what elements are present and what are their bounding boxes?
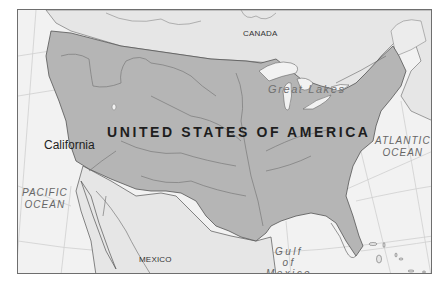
pacific-line-1: PACIFIC <box>22 188 68 198</box>
label-gulf-of-mexico: Gulf of Mexico <box>266 247 312 274</box>
gulf-line-1: Gulf <box>266 247 312 257</box>
label-mexico: MEXICO <box>139 256 172 264</box>
label-atlantic-ocean: ATLANTIC OCEAN <box>375 136 431 158</box>
label-pacific-ocean: PACIFIC OCEAN <box>22 188 68 210</box>
label-canada: CANADA <box>243 30 278 38</box>
atlantic-line-1: ATLANTIC <box>375 136 431 146</box>
label-usa: UNITED STATES OF AMERICA <box>107 125 371 139</box>
map-frame: CANADA Great Lakes UNITED STATES OF AMER… <box>17 9 432 274</box>
gulf-line-2: of <box>266 258 312 268</box>
atlantic-line-2: OCEAN <box>375 148 431 158</box>
pacific-line-2: OCEAN <box>22 200 68 210</box>
gulf-line-3: Mexico <box>266 269 312 274</box>
label-great-lakes: Great Lakes <box>268 84 346 95</box>
label-california: California <box>44 139 95 151</box>
